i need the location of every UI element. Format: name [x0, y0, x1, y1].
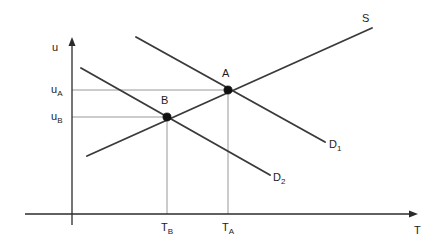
- y-axis-label-text: u: [52, 41, 58, 53]
- curve-label-s-base: S: [362, 12, 369, 24]
- demand-curve-d2: [81, 68, 270, 175]
- x-tick-label-tb: TB: [161, 222, 173, 236]
- curve-label-d1-base: D: [329, 138, 337, 150]
- y-tick-label-ua: uA: [51, 84, 62, 98]
- point-marker-b: [163, 113, 171, 121]
- y-tick-ub-subscript: B: [57, 116, 62, 125]
- curve-label-d2-base: D: [273, 171, 281, 183]
- curve-label-d2-subscript: 2: [281, 177, 285, 186]
- curve-label-d2: D2: [273, 172, 285, 186]
- y-axis-arrow-icon: [69, 37, 76, 46]
- x-axis-label: T: [414, 225, 421, 236]
- curve-label-d1-subscript: 1: [337, 144, 341, 153]
- supply-demand-figure: u T uA uB TB TA S D1 D2 A B: [0, 0, 434, 249]
- point-label-b: B: [161, 95, 168, 106]
- point-marker-a: [224, 86, 232, 94]
- x-axis-arrow-icon: [409, 211, 418, 218]
- x-tick-tb-base: T: [161, 221, 168, 233]
- y-tick-ua-subscript: A: [57, 89, 62, 98]
- curve-label-s: S: [362, 13, 369, 27]
- curve-label-d1: D1: [329, 139, 341, 153]
- y-axis-label: u: [52, 42, 58, 53]
- point-label-a-text: A: [222, 67, 229, 79]
- y-tick-label-ub: uB: [51, 111, 62, 125]
- point-label-a: A: [222, 68, 229, 79]
- x-tick-ta-base: T: [222, 221, 229, 233]
- x-tick-label-ta: TA: [222, 222, 234, 236]
- x-axis-label-text: T: [414, 224, 421, 236]
- point-label-b-text: B: [161, 94, 168, 106]
- x-tick-ta-subscript: A: [229, 227, 234, 236]
- x-tick-tb-subscript: B: [168, 227, 173, 236]
- diagram-canvas: [0, 0, 434, 249]
